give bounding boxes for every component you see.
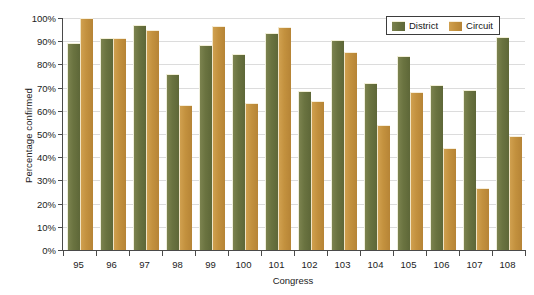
- bar-district-106: [430, 85, 443, 250]
- bar-circuit-107: [476, 188, 489, 250]
- x-tick-label-106: 106: [425, 252, 458, 270]
- y-tick-label: 40%: [7, 152, 63, 163]
- bar-circuit-105: [410, 92, 423, 250]
- bar-group-97: [129, 18, 162, 250]
- bar-group-103: [327, 18, 360, 250]
- bar-group-96: [96, 18, 129, 250]
- x-tick-label-102: 102: [293, 252, 326, 270]
- plot-area: 0%10%20%30%40%50%60%70%80%90%100%: [62, 18, 525, 251]
- bar-group-100: [228, 18, 261, 250]
- x-tick-label-104: 104: [359, 252, 392, 270]
- x-tick-label-103: 103: [326, 252, 359, 270]
- bar-groups: [63, 18, 525, 250]
- district-swatch-icon: [392, 21, 405, 31]
- bar-chart-figure: Percentage confirmed 0%10%20%30%40%50%60…: [0, 0, 534, 295]
- y-tick-label: 30%: [7, 175, 63, 186]
- bar-circuit-102: [311, 101, 324, 250]
- legend-label: Circuit: [466, 20, 493, 31]
- bar-circuit-108: [509, 136, 522, 250]
- bar-district-100: [232, 54, 245, 250]
- x-tick-label-101: 101: [260, 252, 293, 270]
- bar-district-101: [265, 33, 278, 250]
- x-tick-label-105: 105: [392, 252, 425, 270]
- chart-legend: DistrictCircuit: [386, 16, 500, 35]
- x-tick-label-95: 95: [62, 252, 95, 270]
- y-tick-label: 50%: [7, 129, 63, 140]
- bar-group-102: [294, 18, 327, 250]
- bar-circuit-96: [113, 38, 126, 250]
- bar-district-97: [133, 25, 146, 250]
- bar-group-98: [162, 18, 195, 250]
- bar-district-95: [67, 43, 80, 250]
- bar-group-106: [426, 18, 459, 250]
- bar-circuit-95: [80, 18, 93, 250]
- bar-circuit-101: [278, 27, 291, 250]
- bar-circuit-106: [443, 148, 456, 250]
- x-axis-labels: 9596979899100101102103104105106107108: [62, 252, 524, 270]
- x-tick-label-99: 99: [194, 252, 227, 270]
- bar-group-108: [492, 18, 525, 250]
- bar-group-99: [195, 18, 228, 250]
- bar-district-105: [397, 56, 410, 250]
- legend-entry-circuit[interactable]: Circuit: [449, 20, 493, 31]
- y-tick-label: 20%: [7, 198, 63, 209]
- circuit-swatch-icon: [449, 21, 462, 31]
- x-tick-label-97: 97: [128, 252, 161, 270]
- y-tick-label: 100%: [7, 13, 63, 24]
- bar-group-104: [360, 18, 393, 250]
- bar-circuit-97: [146, 30, 159, 250]
- bar-circuit-104: [377, 125, 390, 250]
- y-tick-label: 10%: [7, 221, 63, 232]
- y-tick-label: 90%: [7, 36, 63, 47]
- legend-label: District: [409, 20, 438, 31]
- bar-group-95: [63, 18, 96, 250]
- x-axis-title: Congress: [62, 275, 524, 286]
- x-tick-label-107: 107: [458, 252, 491, 270]
- bar-circuit-99: [212, 26, 225, 250]
- legend-entry-district[interactable]: District: [392, 20, 438, 31]
- bar-group-107: [459, 18, 492, 250]
- x-tick-mark: [525, 250, 526, 256]
- x-tick-label-100: 100: [227, 252, 260, 270]
- bar-district-107: [463, 90, 476, 250]
- bar-district-96: [100, 38, 113, 250]
- bar-district-108: [496, 37, 509, 250]
- bar-district-102: [298, 91, 311, 250]
- x-tick-label-96: 96: [95, 252, 128, 270]
- bar-circuit-103: [344, 52, 357, 250]
- y-tick-label: 0%: [7, 245, 63, 256]
- x-tick-label-98: 98: [161, 252, 194, 270]
- y-tick-label: 60%: [7, 105, 63, 116]
- x-tick-label-108: 108: [491, 252, 524, 270]
- bar-group-101: [261, 18, 294, 250]
- bar-district-98: [166, 74, 179, 250]
- y-tick-label: 80%: [7, 59, 63, 70]
- bar-circuit-100: [245, 103, 258, 250]
- bar-circuit-98: [179, 105, 192, 250]
- y-tick-label: 70%: [7, 82, 63, 93]
- bar-group-105: [393, 18, 426, 250]
- bar-district-103: [331, 40, 344, 250]
- bar-district-104: [364, 83, 377, 250]
- bar-district-99: [199, 45, 212, 250]
